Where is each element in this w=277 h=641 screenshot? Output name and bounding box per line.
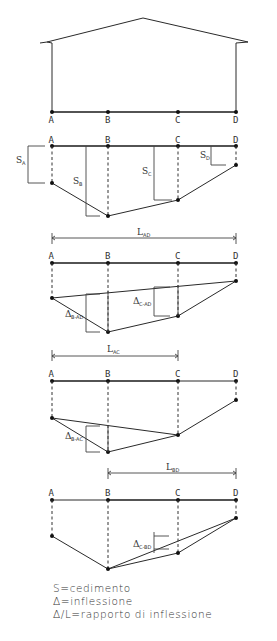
- point-label-c: C: [175, 369, 180, 379]
- svg-text:AC: AC: [113, 349, 120, 355]
- point-label-a: A: [49, 135, 55, 145]
- point-label-b: B: [105, 115, 110, 125]
- svg-text:C: C: [148, 171, 152, 177]
- svg-text:D: D: [206, 155, 210, 161]
- svg-text:B: B: [79, 181, 83, 187]
- legend-deflection-ratio: Δ/L=rapporto di inflessione: [53, 608, 212, 621]
- legend-deflection: Δ=inflessione: [53, 595, 212, 608]
- roof: [40, 18, 248, 43]
- deflection-ad-panel: L AD A B C D Δ B-AD Δ C-AD: [49, 227, 239, 334]
- point-label-a: A: [49, 369, 55, 379]
- point-label-a: A: [49, 115, 55, 125]
- svg-text:C-BD: C-BD: [139, 544, 152, 550]
- point-label-d: D: [233, 488, 238, 498]
- settlement-diagram: A B C D A B C D S A S B S C: [0, 0, 277, 641]
- svg-text:B-AC: B-AC: [71, 436, 83, 442]
- legend: S=cedimento Δ=inflessione Δ/L=rapporto d…: [53, 582, 212, 621]
- point-label-d: D: [233, 135, 238, 145]
- svg-text:B-AD: B-AD: [71, 314, 84, 320]
- legend-settlement: S=cedimento: [53, 582, 212, 595]
- point-label-d: D: [233, 369, 238, 379]
- point-label-c: C: [175, 115, 180, 125]
- point-label-c: C: [175, 135, 180, 145]
- point-label-b: B: [105, 251, 110, 261]
- deflection-bd-panel: L BD A B C D Δ C-BD: [49, 462, 239, 571]
- svg-text:BD: BD: [172, 467, 179, 473]
- point-label-a: A: [49, 488, 55, 498]
- building-panel: A B C D: [40, 18, 248, 125]
- point-label-b: B: [105, 488, 110, 498]
- deflection-ac-panel: L AC A B C D Δ B-AC: [49, 344, 239, 454]
- point-label-c: C: [175, 251, 180, 261]
- svg-text:A: A: [22, 160, 26, 166]
- point-label-b: B: [105, 369, 110, 379]
- point-label-a: A: [49, 251, 55, 261]
- point-label-d: D: [233, 115, 238, 125]
- point-label-d: D: [233, 251, 238, 261]
- settlement-panel: A B C D S A S B S C S D: [16, 135, 238, 218]
- point-label-b: B: [105, 135, 110, 145]
- point-label-c: C: [175, 488, 180, 498]
- svg-text:AD: AD: [143, 232, 150, 238]
- svg-text:C-AD: C-AD: [139, 301, 152, 307]
